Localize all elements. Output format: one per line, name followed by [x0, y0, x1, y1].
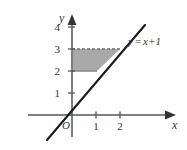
equation-operator: =: [135, 35, 141, 47]
line-equation-label: y=x+1: [128, 36, 161, 47]
equation-lhs: y: [128, 35, 133, 47]
x-tick-label-2: 2: [114, 121, 126, 132]
origin-label: O: [62, 120, 70, 131]
y-tick-label-1: 1: [46, 88, 60, 99]
graph-figure: 1 2 3 4 1 2 y x O y=x+1: [0, 0, 187, 150]
y-tick-label-4: 4: [46, 22, 60, 33]
y-tick-label-3: 3: [46, 44, 60, 55]
x-axis-label: x: [172, 119, 177, 131]
x-tick-label-1: 1: [90, 121, 102, 132]
y-tick-label-2: 2: [46, 66, 60, 77]
y-axis-arrowhead: [68, 14, 77, 25]
equation-rhs: x+1: [143, 35, 161, 47]
shaded-region: [73, 49, 120, 71]
y-axis-label: y: [59, 12, 64, 24]
